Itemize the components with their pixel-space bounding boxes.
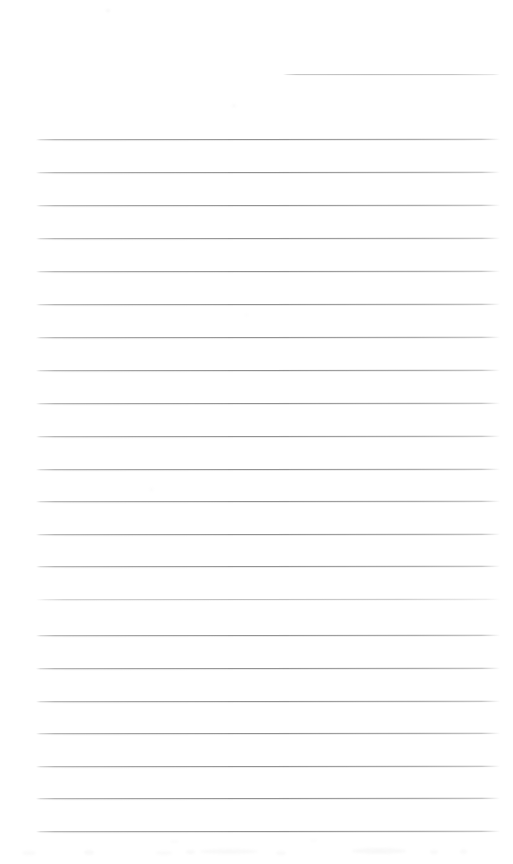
ruled-line (36, 765, 500, 766)
paper-surface (0, 0, 513, 864)
ruled-line-ink (36, 668, 500, 669)
scan-smudge (310, 839, 317, 842)
ruled-line-ink (36, 436, 500, 437)
ruled-line-ink (36, 733, 500, 734)
ruled-line-ink (36, 598, 500, 599)
scan-smudge (84, 850, 94, 855)
ruled-line (36, 304, 500, 305)
ruled-line (36, 205, 500, 206)
ruled-line (36, 468, 500, 469)
scan-speck (232, 104, 236, 107)
ruled-line-partial (283, 74, 500, 75)
ruled-line (36, 138, 500, 139)
ruled-line-ink (36, 337, 500, 338)
scan-smudge (186, 850, 195, 854)
ruled-line (36, 700, 500, 701)
ruled-line-ink (36, 138, 500, 139)
scan-speck (150, 488, 153, 491)
ruled-line (36, 403, 500, 404)
ruled-line-ink (36, 370, 500, 371)
scanned-page (0, 0, 513, 864)
ruled-line (36, 271, 500, 272)
ruled-line-ink (36, 304, 500, 305)
ruled-line-ink (36, 238, 500, 239)
ruled-line-ink (36, 635, 500, 636)
scan-speck (245, 314, 248, 316)
scan-smudge (352, 848, 406, 854)
ruled-line (36, 598, 500, 599)
ruled-line-ink (36, 700, 500, 701)
ruled-line (36, 337, 500, 338)
ruled-line (36, 436, 500, 437)
scan-smudge (460, 849, 467, 854)
scan-smudge (156, 851, 172, 855)
ruled-line-ink (36, 501, 500, 502)
scan-smudge (22, 851, 36, 855)
ruled-line (36, 171, 500, 172)
ruled-line-ink (36, 533, 500, 534)
ruled-line-ink (36, 468, 500, 469)
ruled-line (36, 533, 500, 534)
ruled-line-ink (36, 765, 500, 766)
scan-smudge (200, 849, 258, 854)
scan-smudge (276, 851, 286, 855)
ruled-line (36, 830, 500, 831)
ruled-line (36, 798, 500, 799)
ruled-line-ink (283, 74, 500, 75)
ruled-line (36, 635, 500, 636)
ruled-line-ink (36, 205, 500, 206)
ruled-line-ink (36, 798, 500, 799)
ruled-line (36, 238, 500, 239)
ruled-line-ink (36, 566, 500, 567)
ruled-line-ink (36, 171, 500, 172)
ruled-line-ink (36, 403, 500, 404)
bottom-scan-noise-group (0, 834, 513, 864)
scan-smudge (170, 840, 179, 843)
scan-speck (106, 9, 110, 12)
ruled-line-ink (36, 830, 500, 831)
scan-smudge (430, 850, 438, 854)
ruled-line (36, 733, 500, 734)
ruled-line-ink (36, 271, 500, 272)
ruled-line (36, 370, 500, 371)
ruled-line (36, 566, 500, 567)
ruled-line (36, 668, 500, 669)
ruled-line (36, 501, 500, 502)
